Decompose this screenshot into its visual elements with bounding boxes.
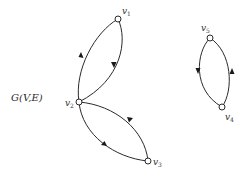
edge-v5-v4 bbox=[199, 38, 222, 107]
label-v1: v1 bbox=[122, 6, 131, 17]
node-v1 bbox=[115, 16, 121, 22]
arrow-up-icon bbox=[79, 52, 84, 58]
arrow-up-icon bbox=[230, 68, 235, 74]
label-v2: v2 bbox=[65, 98, 74, 109]
label-v5: v5 bbox=[201, 23, 210, 34]
label-v3: v3 bbox=[153, 157, 162, 168]
edge-v2-v3 bbox=[79, 102, 148, 161]
node-v2 bbox=[76, 99, 82, 105]
arrow-down-right-icon bbox=[101, 141, 107, 146]
node-v5 bbox=[207, 35, 213, 41]
edge-v3-v2 bbox=[79, 102, 148, 161]
edge-v1-v2 bbox=[79, 19, 122, 102]
edge-v4-v5 bbox=[210, 38, 229, 107]
label-v4: v4 bbox=[225, 112, 234, 123]
arrow-up-left-icon bbox=[127, 117, 133, 123]
node-v3 bbox=[145, 158, 151, 164]
graph-title: G(V,E) bbox=[11, 92, 43, 103]
graph-diagram: G(V,E) v1 v2 v3 v4 v5 bbox=[0, 0, 250, 179]
node-v4 bbox=[219, 104, 225, 110]
